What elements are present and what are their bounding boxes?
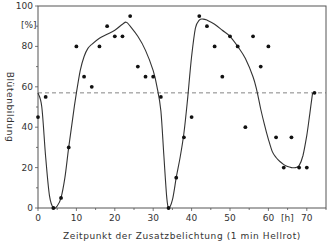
- y-axis-ticks: 020406080100: [16, 1, 38, 213]
- plot-frame: [38, 6, 326, 208]
- data-point: [128, 14, 132, 18]
- x-tick-label: 30: [147, 213, 159, 223]
- data-point: [75, 45, 79, 49]
- data-point: [243, 125, 247, 129]
- y-tick-label: 80: [22, 41, 34, 51]
- data-point: [121, 34, 125, 38]
- data-point: [267, 45, 271, 49]
- data-point: [220, 75, 224, 79]
- x-unit-label: [h]: [281, 213, 294, 223]
- data-point: [67, 146, 71, 150]
- x-tick-label: 70: [301, 213, 313, 223]
- data-point: [313, 91, 317, 95]
- data-point: [190, 115, 194, 119]
- data-point: [236, 45, 240, 49]
- y-tick-label: 40: [22, 122, 34, 132]
- y-tick-label: 100: [16, 1, 33, 11]
- data-point: [59, 196, 63, 200]
- data-point: [174, 176, 178, 180]
- data-point: [259, 65, 263, 69]
- y-tick-label: 0: [27, 203, 33, 213]
- data-point: [90, 85, 94, 89]
- fit-curve: [38, 19, 313, 209]
- data-point: [167, 206, 171, 210]
- data-point: [282, 166, 286, 170]
- x-tick-label: 40: [186, 213, 198, 223]
- y-unit-label: [%]: [21, 20, 37, 30]
- data-point: [98, 45, 102, 49]
- x-axis-title: Zeitpunkt der Zusatzbelichtung (1 min He…: [63, 231, 301, 241]
- x-tick-label: 20: [109, 213, 121, 223]
- data-point: [290, 135, 294, 139]
- chart: 020406080100 010203040506070 [%] [h] Blü…: [0, 0, 327, 242]
- x-tick-label: 10: [71, 213, 83, 223]
- y-tick-label: 20: [22, 163, 34, 173]
- data-point: [51, 206, 55, 210]
- data-point: [305, 166, 309, 170]
- data-point: [297, 166, 301, 170]
- data-point: [197, 14, 201, 18]
- data-point: [136, 65, 140, 69]
- x-tick-label: 50: [224, 213, 236, 223]
- data-point: [151, 75, 155, 79]
- data-point: [82, 75, 86, 79]
- data-point: [274, 135, 278, 139]
- x-tick-label: 0: [35, 213, 41, 223]
- data-point: [251, 34, 255, 38]
- data-point: [205, 24, 209, 28]
- data-point: [213, 45, 217, 49]
- x-tick-label: 60: [263, 213, 275, 223]
- data-point: [182, 135, 186, 139]
- data-point: [159, 95, 163, 99]
- data-point: [44, 95, 48, 99]
- data-point: [144, 75, 148, 79]
- data-point: [113, 34, 117, 38]
- y-axis-title: Blütenbildung: [5, 72, 15, 143]
- data-point: [228, 34, 232, 38]
- data-point: [105, 24, 109, 28]
- y-tick-label: 60: [22, 82, 34, 92]
- data-point: [36, 115, 40, 119]
